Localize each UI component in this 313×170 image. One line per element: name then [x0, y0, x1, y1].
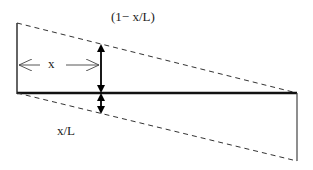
- shape-function-diagram: [0, 0, 313, 170]
- upper-dashed-line: [17, 23, 297, 93]
- lower-label: x/L: [57, 124, 75, 137]
- x-distance-label: x: [48, 57, 55, 70]
- upper-arrowhead-top: [97, 44, 105, 52]
- upper-label: (1− x/L): [111, 10, 155, 23]
